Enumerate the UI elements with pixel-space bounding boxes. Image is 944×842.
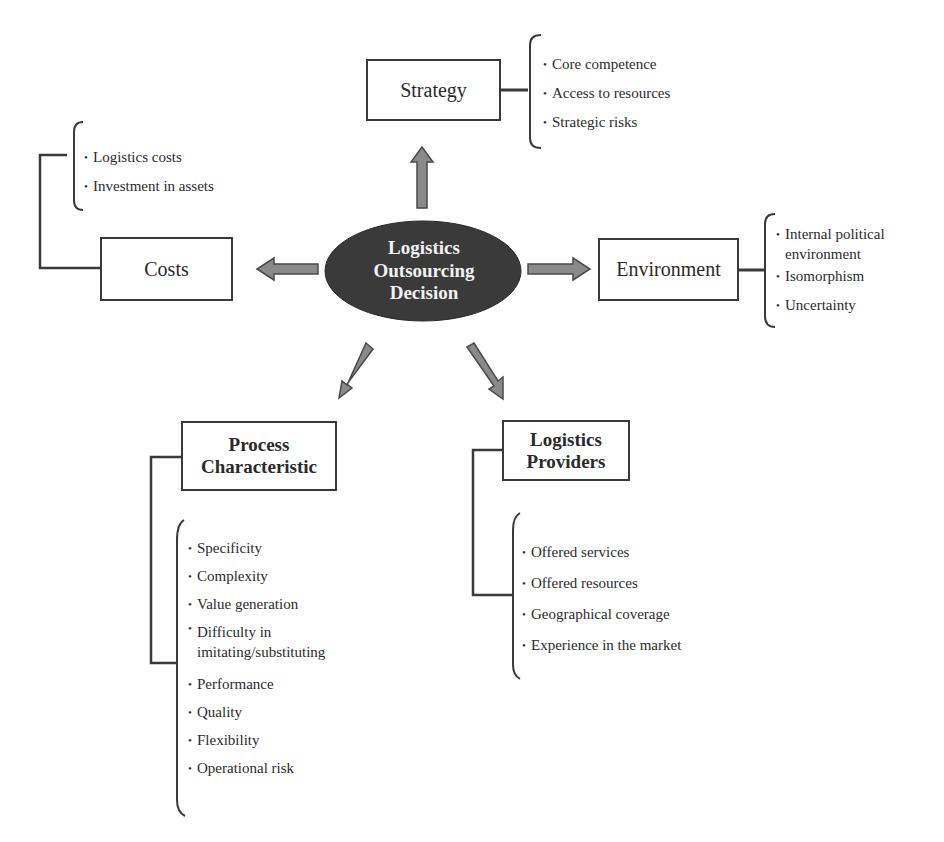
- list-item: Isomorphism: [776, 266, 926, 286]
- center-label-line-3: Decision: [373, 282, 474, 305]
- providers-title-line-2: Providers: [527, 451, 606, 473]
- list-item: Logistics costs: [84, 143, 214, 172]
- providers-items: Offered services Offered resources Geogr…: [522, 537, 681, 661]
- list-item: Specificity: [188, 534, 358, 562]
- center-label-line-2: Outsourcing: [373, 260, 474, 283]
- costs-box: Costs: [100, 237, 233, 301]
- strategy-bracket: [530, 35, 541, 148]
- costs-title: Costs: [144, 258, 188, 281]
- list-item: Offered services: [522, 537, 681, 568]
- costs-items: Logistics costs Investment in assets: [84, 143, 214, 201]
- arrow-up-icon: [411, 147, 433, 208]
- process-characteristic-box: Process Characteristic: [181, 421, 337, 491]
- list-item: Flexibility: [188, 726, 358, 754]
- arrow-down-right-icon: [467, 343, 503, 399]
- list-item: Difficulty in imitating/substituting: [188, 618, 358, 670]
- strategy-box: Strategy: [366, 59, 501, 121]
- list-item: Strategic risks: [543, 108, 670, 137]
- list-item: Complexity: [188, 562, 358, 590]
- list-item: Core competence: [543, 50, 670, 79]
- diagram-connectors: [0, 0, 944, 842]
- list-item: Offered resources: [522, 568, 681, 599]
- center-node-logistics-outsourcing-decision: Logistics Outsourcing Decision: [325, 220, 523, 322]
- costs-bracket: [74, 122, 83, 210]
- environment-items: Internal political environment Isomorphi…: [776, 224, 926, 315]
- providers-bracket: [513, 513, 520, 679]
- list-item: Uncertainty: [776, 295, 926, 315]
- arrow-right-icon: [528, 258, 590, 280]
- strategy-items: Core competence Access to resources Stra…: [543, 50, 670, 137]
- environment-box: Environment: [598, 238, 739, 301]
- list-item: Experience in the market: [522, 630, 681, 661]
- arrow-down-left-icon: [339, 343, 373, 398]
- list-item: Investment in assets: [84, 172, 214, 201]
- providers-title-line-1: Logistics: [527, 429, 606, 451]
- list-item: Internal political environment: [776, 224, 926, 264]
- process-title-line-1: Process: [201, 434, 317, 456]
- center-label-line-1: Logistics: [373, 237, 474, 260]
- list-item: Value generation: [188, 590, 358, 618]
- arrow-left-icon: [257, 258, 318, 280]
- process-title-line-2: Characteristic: [201, 456, 317, 478]
- list-item: Geographical coverage: [522, 599, 681, 630]
- list-item: Quality: [188, 698, 358, 726]
- strategy-title: Strategy: [400, 79, 467, 102]
- list-item: Operational risk: [188, 754, 358, 782]
- process-bracket: [177, 520, 185, 816]
- list-item: Access to resources: [543, 79, 670, 108]
- environment-title: Environment: [616, 258, 720, 281]
- logistics-providers-box: Logistics Providers: [502, 420, 630, 481]
- environment-bracket: [765, 214, 775, 327]
- process-items: Specificity Complexity Value generation …: [188, 534, 358, 782]
- list-item: Performance: [188, 670, 358, 698]
